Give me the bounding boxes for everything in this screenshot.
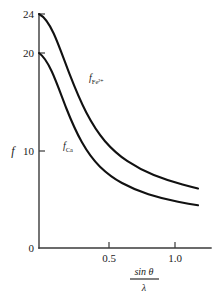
- x-axis-title-denominator: λ: [141, 282, 147, 293]
- y-tick-label-20: 20: [23, 47, 35, 59]
- curve-label-fe2plus-subscript: Fe²⁺: [92, 78, 104, 85]
- y-tick-label-10: 10: [23, 145, 35, 157]
- x-axis-title-numerator: sin θ: [134, 266, 153, 277]
- curve-label-fe2plus: fFe²⁺: [89, 72, 104, 85]
- curve-label-ca-subscript: Ca: [66, 146, 73, 153]
- y-axis-title: f: [11, 144, 16, 158]
- x-tick-label-0p5: 0.5: [102, 252, 116, 264]
- x-tick-label-1p0: 1.0: [168, 252, 182, 264]
- curve-label-ca: fCa: [63, 140, 73, 153]
- y-tick-label-24: 24: [23, 8, 35, 20]
- y-tick-label-0: 0: [29, 242, 35, 254]
- x-axis-title: sin θ λ: [130, 266, 159, 293]
- scattering-factor-chart: 24 20 10 0 0.5 1.0 f sin θ λ fFe²⁺ fCa: [0, 0, 216, 298]
